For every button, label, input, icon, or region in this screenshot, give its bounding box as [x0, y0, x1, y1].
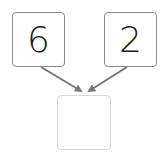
- arrow-right-icon: [89, 67, 127, 91]
- arrow-left-icon: [41, 67, 81, 91]
- answer-box[interactable]: [57, 95, 111, 150]
